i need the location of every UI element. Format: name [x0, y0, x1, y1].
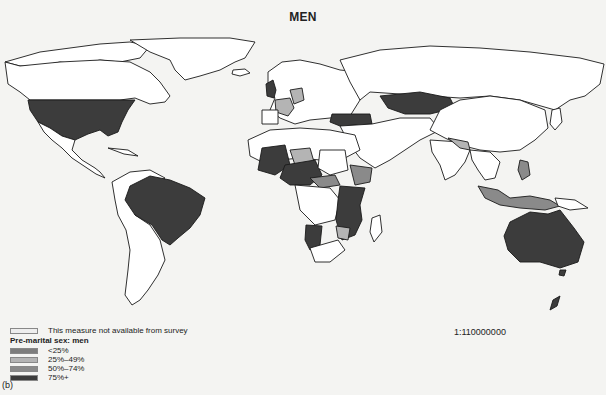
legend-item: 25%–49% [10, 355, 188, 364]
madagascar [370, 215, 382, 242]
new-zealand [550, 296, 560, 310]
legend-swatch-50-74 [10, 366, 38, 372]
tasmania [559, 270, 566, 276]
sudan [318, 150, 348, 175]
southeast-asia [470, 150, 500, 180]
legend-na-label: This measure not available from survey [48, 326, 188, 335]
legend-na-row: This measure not available from survey [10, 326, 188, 335]
australia [504, 210, 584, 268]
united-states [28, 100, 135, 140]
panel-label: (b) [2, 380, 13, 390]
legend-label: 25%–49% [48, 355, 84, 364]
legend-swatch-25-49 [10, 357, 38, 363]
papua [555, 198, 588, 210]
legend-item: 50%–74% [10, 364, 188, 373]
indonesia [478, 186, 560, 210]
ethiopia [350, 165, 372, 185]
legend-na-swatch [10, 328, 38, 334]
map-legend: This measure not available from survey P… [10, 326, 188, 382]
legend-swatch-75-plus [10, 375, 38, 381]
cuba [108, 148, 138, 156]
central-africa [295, 185, 340, 225]
legend-label: 75%+ [48, 373, 69, 382]
iceland [232, 69, 250, 76]
legend-swatch-lt25 [10, 348, 38, 354]
malawi-zimbabwe [336, 226, 350, 240]
legend-label: 50%–74% [48, 364, 84, 373]
legend-item: 75%+ [10, 373, 188, 382]
japan [550, 108, 562, 130]
map-scale: 1:110000000 [454, 327, 506, 337]
philippines [518, 160, 530, 180]
iberia [262, 110, 278, 124]
canada [5, 60, 170, 104]
legend-label: <25% [48, 346, 69, 355]
legend-title: Pre-marital sex: men [10, 336, 188, 345]
legend-item: <25% [10, 346, 188, 355]
